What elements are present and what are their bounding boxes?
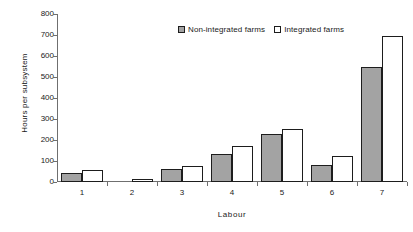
bar	[361, 67, 382, 183]
y-axis-tick-label: 100	[24, 157, 54, 165]
legend-entry: Integrated farms	[274, 25, 344, 34]
bar	[182, 166, 203, 182]
y-axis-tick-label: 200	[24, 136, 54, 144]
plot-area	[57, 14, 407, 182]
x-axis-tick-mark	[157, 182, 158, 186]
bar-group	[211, 14, 253, 182]
x-axis-title: Labour	[57, 210, 407, 219]
y-axis-tick-label: 800	[24, 10, 54, 18]
bar-group	[161, 14, 203, 182]
y-axis-tick-label: 600	[24, 52, 54, 60]
bar	[382, 36, 403, 182]
bar-chart-figure: Hours per subsystem 01002003004005006007…	[0, 0, 413, 232]
x-axis-tick-label: 2	[107, 188, 157, 198]
bar-group	[61, 14, 103, 182]
x-axis-tick-mark	[257, 182, 258, 186]
bar	[211, 154, 232, 182]
bar	[332, 156, 353, 182]
bar	[82, 170, 103, 182]
legend-swatch-icon	[178, 26, 185, 33]
y-axis-tick-label: 700	[24, 31, 54, 39]
y-axis-tick-labels: 0100200300400500600700800	[24, 14, 54, 184]
bar	[261, 134, 282, 182]
bar-group	[361, 14, 403, 182]
x-axis-tick-mark	[407, 182, 408, 186]
y-axis-tick-label: 300	[24, 115, 54, 123]
x-axis-tick-label: 5	[257, 188, 307, 198]
x-axis-tick-labels: 1234567	[57, 188, 407, 200]
x-axis-tick-mark	[357, 182, 358, 186]
bar-group	[261, 14, 303, 182]
y-axis-tick-label: 0	[24, 178, 54, 186]
bar	[232, 146, 253, 182]
legend-label: Integrated farms	[284, 25, 344, 34]
y-axis-tick-label: 500	[24, 73, 54, 81]
legend-label: Non-integrated farms	[188, 25, 265, 34]
x-axis-tick-label: 3	[157, 188, 207, 198]
bar	[282, 129, 303, 182]
x-axis-tick-mark	[307, 182, 308, 186]
bar	[132, 179, 153, 182]
bar	[61, 173, 82, 182]
x-axis-tick-label: 6	[307, 188, 357, 198]
x-axis-tick-label: 7	[357, 188, 407, 198]
x-axis-tick-label: 4	[207, 188, 257, 198]
bar	[311, 165, 332, 182]
bar	[161, 169, 182, 182]
bar-groups	[57, 14, 407, 182]
x-axis-tick-label: 1	[57, 188, 107, 198]
bar-group	[111, 14, 153, 182]
chart-legend: Non-integrated farmsIntegrated farms	[178, 25, 344, 34]
bar-group	[311, 14, 353, 182]
x-axis-tick-mark	[107, 182, 108, 186]
legend-entry: Non-integrated farms	[178, 25, 265, 34]
legend-swatch-icon	[274, 26, 281, 33]
y-axis-tick-mark	[53, 182, 57, 183]
y-axis-tick-label: 400	[24, 94, 54, 102]
x-axis-tick-mark	[207, 182, 208, 186]
